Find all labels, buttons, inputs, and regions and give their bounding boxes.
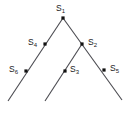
tree-node-marker-s3	[63, 69, 66, 72]
tree-node-label-s1: S1	[56, 4, 65, 13]
tree-node-label-s4: S4	[28, 38, 37, 47]
tree-edges	[8, 18, 122, 101]
node-label-subscript: 3	[76, 69, 79, 75]
node-label-base: S	[88, 37, 94, 47]
node-label-base: S	[9, 64, 15, 74]
node-label-base: S	[110, 63, 116, 73]
tree-node-marker-s5	[102, 68, 105, 71]
node-label-subscript: 2	[94, 42, 97, 48]
node-label-subscript: 5	[116, 68, 119, 74]
tree-node-label-s6: S6	[9, 65, 18, 74]
node-label-subscript: 6	[15, 69, 18, 75]
tree-node-marker-s2	[80, 42, 83, 45]
tree-node-label-s5: S5	[110, 64, 119, 73]
node-label-base: S	[56, 3, 62, 13]
node-label-base: S	[70, 64, 76, 74]
node-label-base: S	[28, 37, 34, 47]
tree-node-marker-s1	[61, 16, 64, 19]
tree-node-label-s2: S2	[88, 38, 97, 47]
tree-edge	[8, 18, 63, 101]
node-label-subscript: 1	[62, 8, 65, 14]
node-label-subscript: 4	[34, 42, 37, 48]
tree-diagram-figure: S1S4S2S6S3S5	[0, 0, 130, 128]
tree-node-label-s3: S3	[70, 65, 79, 74]
tree-node-marker-s4	[43, 42, 46, 45]
tree-node-marker-s6	[24, 69, 27, 72]
